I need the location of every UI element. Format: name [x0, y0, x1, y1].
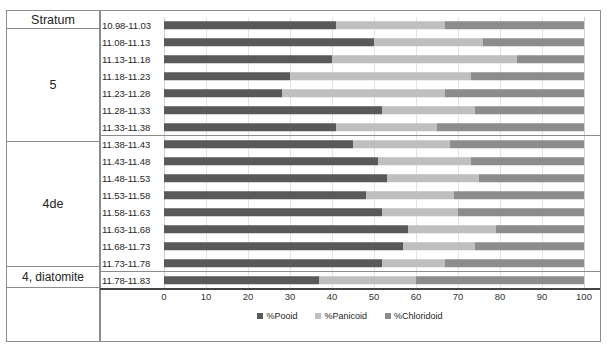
row-label: 11.58-11.63: [102, 207, 160, 218]
bar-segment-pooid: [164, 191, 366, 199]
bar-segment-panicoid: [366, 191, 454, 199]
bar-row: 10.98-11.03: [100, 17, 600, 33]
x-tick-label: 60: [411, 291, 422, 302]
bar-rows: 10.98-11.0311.08-11.1311.13-11.1811.18-1…: [100, 17, 600, 289]
stacked-bar: [164, 174, 584, 182]
stacked-bar: [164, 140, 584, 148]
bar-segment-panicoid: [378, 157, 470, 165]
bar-segment-pooid: [164, 106, 382, 114]
bar-segment-chloridoid: [496, 225, 584, 233]
bar-segment-pooid: [164, 242, 403, 250]
bar-segment-chloridoid: [416, 276, 584, 284]
row-label: 11.73-11.78: [102, 258, 160, 269]
bar-segment-chloridoid: [475, 106, 584, 114]
bar-segment-chloridoid: [479, 174, 584, 182]
stacked-bar: [164, 106, 584, 114]
bar-segment-panicoid: [382, 208, 458, 216]
bar-segment-pooid: [164, 123, 336, 131]
stacked-bar: [164, 225, 584, 233]
stratum-group-4de: 4de: [7, 142, 100, 267]
bar-segment-pooid: [164, 157, 378, 165]
legend-swatch-chloridoid: [385, 313, 391, 319]
bar-segment-chloridoid: [450, 140, 584, 148]
bar-segment-panicoid: [403, 242, 474, 250]
stacked-bar: [164, 157, 584, 165]
plot-area: 10.98-11.0311.08-11.1311.13-11.1811.18-1…: [100, 11, 600, 341]
bar-segment-chloridoid: [445, 89, 584, 97]
bar-row: 11.78-11.83: [100, 272, 600, 288]
legend-swatch-panicoid: [315, 313, 321, 319]
legend: %Pooid%Panicoid%Chloridoid: [100, 311, 600, 321]
bar-segment-pooid: [164, 174, 387, 182]
x-tick-label: 80: [495, 291, 506, 302]
x-tick-label: 90: [537, 291, 548, 302]
bar-row: 11.38-11.43: [100, 136, 600, 152]
chart-page: Stratum 5 4de 4, diatomite 10.98-11.0311…: [0, 0, 608, 352]
row-label: 11.28-11.33: [102, 105, 160, 116]
bar-segment-pooid: [164, 89, 282, 97]
x-tick-label: 40: [327, 291, 338, 302]
row-label: 10.98-11.03: [102, 20, 160, 31]
bar-segment-pooid: [164, 225, 408, 233]
x-tick-label: 30: [285, 291, 296, 302]
bar-segment-chloridoid: [471, 72, 584, 80]
row-label: 11.08-11.13: [102, 37, 160, 48]
bar-segment-chloridoid: [445, 259, 584, 267]
x-axis: 0102030405060708090100: [164, 289, 584, 305]
bar-row: 11.33-11.38: [100, 119, 600, 135]
x-tick-label: 0: [161, 291, 166, 302]
bar-segment-panicoid: [319, 276, 416, 284]
group-separator: [100, 135, 600, 136]
bar-segment-panicoid: [387, 174, 479, 182]
bar-segment-panicoid: [382, 106, 474, 114]
group-separator: [100, 288, 600, 290]
row-label: 11.63-11.68: [102, 224, 160, 235]
bar-segment-panicoid: [336, 21, 445, 29]
row-label: 11.38-11.43: [102, 139, 160, 150]
bar-segment-chloridoid: [445, 21, 584, 29]
bar-segment-panicoid: [332, 55, 517, 63]
bar-segment-pooid: [164, 72, 290, 80]
bar-segment-panicoid: [382, 259, 445, 267]
row-label: 11.23-11.28: [102, 88, 160, 99]
stratum-group-5: 5: [7, 29, 100, 142]
x-tick-label: 10: [201, 291, 212, 302]
legend-item[interactable]: %Panicoid: [315, 311, 367, 321]
stacked-bar: [164, 55, 584, 63]
bar-segment-panicoid: [353, 140, 450, 148]
bar-row: 11.13-11.18: [100, 51, 600, 67]
legend-label: %Panicoid: [324, 311, 367, 321]
stacked-bar: [164, 242, 584, 250]
stacked-bar: [164, 21, 584, 29]
x-tick-label: 100: [576, 291, 592, 302]
bar-segment-panicoid: [374, 38, 483, 46]
row-label: 11.33-11.38: [102, 122, 160, 133]
bar-segment-chloridoid: [454, 191, 584, 199]
stacked-bar: [164, 208, 584, 216]
legend-item[interactable]: %Chloridoid: [385, 311, 443, 321]
stacked-bar: [164, 191, 584, 199]
bar-row: 11.68-11.73: [100, 238, 600, 254]
bar-segment-pooid: [164, 55, 332, 63]
row-label: 11.48-11.53: [102, 173, 160, 184]
stratum-header: Stratum: [7, 11, 100, 29]
stratum-table: Stratum 5 4de 4, diatomite: [7, 11, 100, 341]
legend-item[interactable]: %Pooid: [257, 311, 297, 321]
x-tick-label: 50: [369, 291, 380, 302]
row-label: 11.53-11.58: [102, 190, 160, 201]
bar-segment-chloridoid: [517, 55, 584, 63]
stratum-group-4-diatomite: 4, diatomite: [7, 267, 100, 288]
bar-row: 11.73-11.78: [100, 255, 600, 271]
group-separator: [100, 271, 600, 272]
bar-segment-pooid: [164, 140, 353, 148]
bar-row: 11.48-11.53: [100, 170, 600, 186]
stacked-bar: [164, 89, 584, 97]
stacked-bar: [164, 259, 584, 267]
bar-row: 11.08-11.13: [100, 34, 600, 50]
x-tick-label: 70: [453, 291, 464, 302]
bar-row: 11.58-11.63: [100, 204, 600, 220]
stacked-bar: [164, 276, 584, 284]
bar-segment-pooid: [164, 21, 336, 29]
bar-segment-panicoid: [282, 89, 446, 97]
bar-segment-chloridoid: [458, 208, 584, 216]
